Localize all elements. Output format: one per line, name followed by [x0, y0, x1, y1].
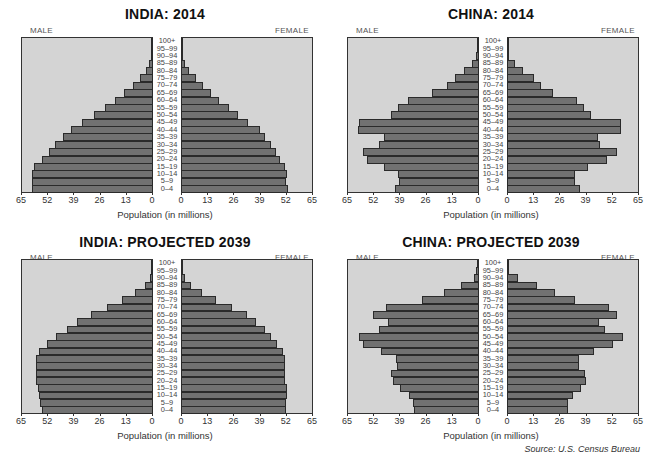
age-group-label: 80–84 — [152, 289, 182, 296]
x-axis-label: Population (in millions) — [326, 430, 656, 441]
x-tick-label: 26 — [549, 416, 569, 426]
male-bar — [379, 326, 479, 334]
female-bar — [181, 311, 247, 319]
x-tick-label: 65 — [11, 416, 31, 426]
female-bar — [181, 67, 189, 75]
male-bar — [94, 111, 153, 119]
female-bar — [507, 370, 585, 378]
female-bar — [181, 97, 219, 105]
x-tick-label: 26 — [90, 195, 110, 205]
female-bar — [181, 82, 203, 90]
male-bar — [49, 148, 153, 156]
x-tick-label: 65 — [628, 195, 648, 205]
age-group-label: 15–19 — [152, 163, 182, 170]
age-group-label: 20–24 — [478, 377, 508, 384]
age-group-label: 0–4 — [152, 406, 182, 413]
female-bar — [507, 340, 613, 348]
female-bar — [181, 355, 285, 363]
male-bar — [47, 340, 153, 348]
male-bar — [42, 406, 153, 414]
female-bar — [181, 384, 287, 392]
female-bar — [507, 170, 575, 178]
female-bar — [507, 185, 580, 193]
age-group-label: 25–29 — [152, 369, 182, 376]
age-group-label: 5–9 — [478, 399, 508, 406]
pyramid-china-2039: CHINA: PROJECTED 2039MALEFEMALE0–45–910–… — [326, 230, 656, 460]
age-group-label: 85–89 — [478, 281, 508, 288]
male-bar — [38, 384, 153, 392]
x-tick-label: 13 — [197, 195, 217, 205]
female-bar — [181, 377, 285, 385]
age-group-label: 100+ — [152, 37, 182, 44]
age-group-label: 85–89 — [152, 59, 182, 66]
age-group-label: 100+ — [478, 37, 508, 44]
male-bar — [32, 170, 153, 178]
pyramid-india-2014: INDIA: 2014MALEFEMALE0–45–910–1415–1920–… — [0, 0, 330, 230]
age-group-label: 5–9 — [152, 177, 182, 184]
female-bar — [181, 156, 280, 164]
age-group-label: 70–74 — [478, 81, 508, 88]
age-group-label: 30–34 — [152, 362, 182, 369]
male-bar — [386, 304, 479, 312]
female-bar — [507, 104, 584, 112]
male-bar — [39, 348, 153, 356]
female-bar — [181, 318, 256, 326]
age-group-label: 35–39 — [152, 133, 182, 140]
age-group-label: 45–49 — [478, 118, 508, 125]
female-bar — [181, 333, 271, 341]
male-bar — [373, 311, 479, 319]
female-bar — [507, 377, 586, 385]
male-bar — [422, 296, 479, 304]
age-group-label: 60–64 — [152, 96, 182, 103]
female-bar — [507, 60, 515, 68]
x-tick-label: 65 — [302, 195, 322, 205]
female-label: FEMALE — [601, 26, 635, 35]
female-bar — [507, 326, 605, 334]
x-tick-label: 39 — [63, 416, 83, 426]
age-group-label: 5–9 — [152, 399, 182, 406]
x-tick-label: 52 — [363, 195, 383, 205]
male-bar — [391, 370, 479, 378]
female-bar — [507, 355, 579, 363]
x-tick-label: 39 — [389, 416, 409, 426]
age-group-label: 10–14 — [152, 170, 182, 177]
male-bar — [455, 74, 479, 82]
female-bar — [507, 392, 573, 400]
age-group-label: 90–94 — [152, 52, 182, 59]
male-bar — [67, 326, 153, 334]
female-bar — [507, 384, 581, 392]
male-bar — [55, 141, 153, 149]
male-bar — [400, 384, 479, 392]
age-group-label: 40–44 — [152, 347, 182, 354]
female-bar — [181, 296, 216, 304]
age-group-label: 55–59 — [152, 325, 182, 332]
female-bar — [181, 104, 229, 112]
male-bar — [56, 333, 153, 341]
male-bar — [358, 126, 479, 134]
age-group-label: 15–19 — [478, 163, 508, 170]
male-bar — [77, 318, 153, 326]
female-bar — [181, 289, 202, 297]
x-tick-label: 39 — [576, 416, 596, 426]
male-bar — [393, 377, 479, 385]
chart-title: CHINA: PROJECTED 2039 — [326, 234, 656, 250]
age-group-label: 60–64 — [478, 96, 508, 103]
female-bar — [181, 126, 260, 134]
x-axis-label: Population (in millions) — [0, 430, 330, 441]
male-bar — [413, 399, 479, 407]
female-bar — [181, 392, 287, 400]
male-label: MALE — [30, 26, 53, 35]
male-bar — [461, 282, 479, 290]
female-bar — [507, 74, 534, 82]
female-bar — [181, 133, 265, 141]
age-group-label: 25–29 — [152, 148, 182, 155]
female-bar — [507, 82, 541, 90]
x-tick-label: 65 — [11, 195, 31, 205]
age-group-label: 30–34 — [478, 141, 508, 148]
female-bar — [181, 399, 286, 407]
male-bar — [36, 370, 153, 378]
x-tick-label: 13 — [523, 416, 543, 426]
x-tick-label: 65 — [302, 416, 322, 426]
male-bar — [359, 119, 479, 127]
male-bar — [384, 133, 479, 141]
